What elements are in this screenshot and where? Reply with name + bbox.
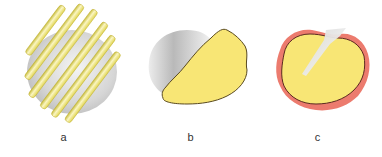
panel-a: a [0,0,127,157]
rods-illustration [0,0,127,130]
panel-label-a: a [0,131,127,143]
disc-illustration [254,0,382,130]
panel-label-c: c [254,131,381,143]
panel-b: b [127,0,254,157]
panel-c: c [254,0,381,157]
patch-illustration [127,0,254,130]
panel-label-b: b [127,131,254,143]
